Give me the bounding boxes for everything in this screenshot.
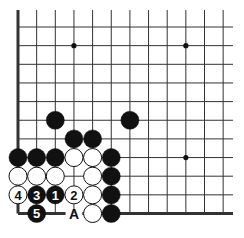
white-stone <box>65 149 83 167</box>
star-point-icon <box>183 43 188 48</box>
black-stone <box>9 149 27 167</box>
black-stone: 3 <box>28 186 46 204</box>
black-stone <box>102 149 120 167</box>
go-board-diagram: 43125 A <box>0 0 244 238</box>
point-label-a: A <box>69 206 79 222</box>
black-stone <box>121 111 139 129</box>
black-stone <box>65 130 83 148</box>
move-number-label: 3 <box>33 188 40 203</box>
white-stone <box>46 167 64 185</box>
white-stone <box>9 167 27 185</box>
move-number-label: 1 <box>52 188 59 203</box>
black-stone <box>46 111 64 129</box>
black-stone: 5 <box>28 204 46 222</box>
black-stone <box>102 204 120 222</box>
white-stone: 4 <box>9 186 27 204</box>
white-stone <box>28 167 46 185</box>
black-stone <box>28 149 46 167</box>
black-stone: 1 <box>46 186 64 204</box>
black-stone <box>84 130 102 148</box>
move-number-label: 5 <box>33 206 40 221</box>
black-stone <box>102 186 120 204</box>
star-point-icon <box>183 155 188 160</box>
black-stone <box>46 149 64 167</box>
move-number-label: 4 <box>14 188 22 203</box>
white-stone <box>84 186 102 204</box>
white-stone <box>84 204 102 222</box>
point-labels: A <box>69 206 79 222</box>
white-stone: 2 <box>65 186 83 204</box>
move-number-label: 2 <box>70 188 77 203</box>
white-stone <box>84 167 102 185</box>
white-stone <box>84 149 102 167</box>
star-point-icon <box>71 43 76 48</box>
black-stone <box>102 167 120 185</box>
